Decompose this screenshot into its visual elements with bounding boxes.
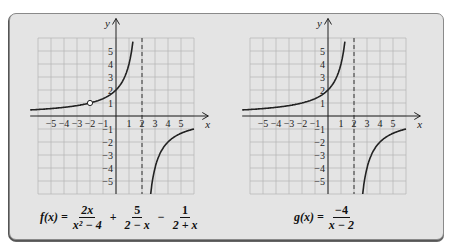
fraction: −4 x − 2 [327,204,356,231]
x-tick-label: 5 [391,118,396,129]
formula-lhs: g(x) = [294,210,324,225]
curve-right-branch [363,129,406,194]
x-tick-label: −3 [284,118,295,129]
x-tick-label: 4 [378,118,383,129]
x-axis-label: x [416,118,422,130]
y-tick-label: −2 [314,137,325,148]
operator: − [158,210,165,225]
x-tick-label: 1 [339,118,344,129]
y-axis-label: y [316,17,322,29]
y-tick-label: 3 [320,72,325,83]
x-tick-label: −4 [271,118,282,129]
operator: + [110,210,117,225]
y-tick-label: 1 [320,98,325,109]
denominator: x² − 4 [71,218,104,231]
x-tick-label: −2 [297,118,308,129]
denominator: 2 + x [171,218,200,231]
denominator: 2 − x [123,218,152,231]
curve-left-branch [242,42,345,110]
denominator: x − 2 [327,218,356,231]
x-tick-label: −5 [258,118,269,129]
y-tick-label: −4 [314,163,325,174]
numerator: −4 [333,204,350,218]
x-tick-label: 2 [352,118,357,129]
formula-g: g(x) = −4 x − 2 [294,204,359,231]
fraction: 1 2 + x [171,204,200,231]
y-tick-label: 5 [320,46,325,57]
formula-f: f(x) = 2x x² − 4 + 5 2 − x − 1 2 + x [40,204,203,231]
y-tick-label: −3 [314,150,325,161]
formula-lhs: f(x) = [40,210,68,225]
y-tick-label: 4 [320,59,325,70]
numerator: 1 [180,204,190,218]
numerator: 2x [79,204,95,218]
fraction: 2x x² − 4 [71,204,104,231]
y-tick-label: −1 [314,124,325,135]
y-tick-label: −5 [314,176,325,187]
x-tick-label: 3 [365,118,370,129]
fraction: 5 2 − x [123,204,152,231]
numerator: 5 [132,204,142,218]
